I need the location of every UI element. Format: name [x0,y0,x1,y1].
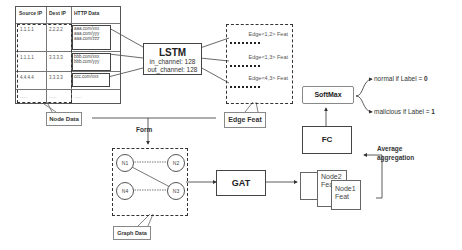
output-normal-value: 0 [424,75,428,82]
output-normal-text: normal if Label = [374,75,424,82]
node-selection-highlight [17,24,72,103]
form-label: Form [136,126,152,133]
gat-block: GAT [216,170,266,196]
lstm-in-channel: in_channel: 128 [144,58,201,66]
node-data-callout: Node Data [46,112,82,126]
cell-src: 1.1.1.1 [20,55,34,60]
edge-feat-callout: Edge Feat [224,112,266,128]
edge-feat-label: Edge<1,3> Feat [249,54,288,60]
edge-feat-box: Edge<1,2> Feat Edge<1,3> Feat Edge<4,3> … [226,24,293,104]
cell-dst: 3.3.3.3 [49,55,63,60]
header-source-ip: Source IP [19,10,43,16]
node1-feat-card: Node1 Feat [331,180,361,210]
header-dest-ip: Dest IP [49,10,69,16]
output-malicious-value: 1 [431,108,435,115]
edge-feat-vector [230,86,260,88]
graph-node-n3: N3 [167,182,185,200]
url-text: bbb.com/yyy [73,59,110,64]
cell-http: ...... [74,94,82,99]
aggregation-label-line2: aggregation [377,153,414,162]
cell-dst: 3.3.3.3 [49,75,63,80]
cell-src: 4.4.4.4 [20,75,34,80]
node-data-table: Source IP Dest IP HTTP Data 1.1.1.1 2.2.… [15,6,121,104]
output-normal: normal if Label = 0 [374,75,428,82]
cell-src: 1.1.1.1 [20,27,34,32]
aggregation-label-line1: Average [377,144,414,153]
graph-node-n4: N4 [116,182,134,200]
graph-data-callout: Graph Data [113,226,151,240]
http-data-box: ccc.com/xxx [72,73,110,87]
graph-node-n2: N2 [167,154,185,172]
edge-feat-label: Edge<1,2> Feat [249,31,288,37]
header-http-data: HTTP Data [74,10,99,16]
cell-dst: ...... [49,94,57,99]
http-data-box: bbb.com/xxx bbb.com/yyy [72,53,111,71]
lstm-out-channel: out_channel: 128 [144,66,201,74]
lstm-block: LSTM in_channel: 128 out_channel: 128 [143,43,202,75]
graph-node-n1: N1 [116,154,134,172]
cell-src: ...... [20,94,28,99]
aggregation-label: Average aggregation [377,144,414,162]
softmax-block: SoftMax [302,86,354,104]
lstm-title: LSTM [144,47,201,58]
node1-feat-line1: Node1 [335,185,360,193]
http-data-box: aaa.com/xxx aaa.com/yyy aaa.com/zzz [72,25,111,50]
edge-feat-label: Edge<4,3> Feat [249,75,288,81]
output-malicious-text: malicious if Label = [374,108,431,115]
edge-feat-vector [230,42,260,44]
edge-feat-vector [230,65,260,67]
node1-feat-line2: Feat [335,193,360,201]
fc-block: FC [302,126,352,154]
url-text: ccc.com/xxx [73,74,109,79]
cell-dst: 2.2.2.2 [49,27,63,32]
output-malicious: malicious if Label = 1 [374,108,435,115]
url-text: aaa.com/zzz [73,36,110,41]
